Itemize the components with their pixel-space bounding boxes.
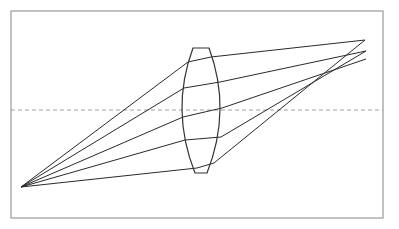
light-ray-4 — [21, 51, 366, 187]
light-ray-2 — [21, 51, 366, 187]
biconvex-lens — [182, 48, 220, 173]
rays-group — [21, 40, 366, 187]
diagram-frame — [11, 11, 383, 218]
ray-diagram — [0, 0, 399, 229]
